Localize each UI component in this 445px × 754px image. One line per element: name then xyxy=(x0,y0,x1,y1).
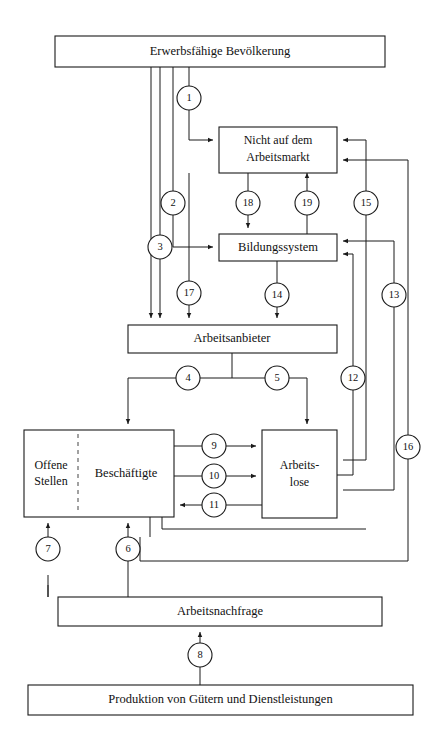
box-label-produktion: Produktion von Gütern und Dienstleistung… xyxy=(108,692,333,706)
flow-node-7[interactable]: 7 xyxy=(36,537,60,561)
flow-node-6[interactable]: 6 xyxy=(116,537,140,561)
box-label-offene-stellen-line1: Offene xyxy=(34,458,67,472)
flow-node-label-15: 15 xyxy=(361,197,372,208)
box-label-nicht-auf-dem-arbeitsmarkt-line1: Nicht auf dem xyxy=(244,133,313,147)
flow-node-label-10: 10 xyxy=(209,470,220,481)
connector-4 xyxy=(200,353,232,378)
connector-12b xyxy=(337,390,353,475)
box-label-arbeitslose-line2: lose xyxy=(290,475,309,489)
connector-13b xyxy=(343,307,394,490)
connector-12 xyxy=(343,254,353,366)
box-label-nicht-auf-dem-arbeitsmarkt-line2: Arbeitsmarkt xyxy=(246,150,310,164)
flow-node-17[interactable]: 17 xyxy=(177,281,201,305)
flow-node-label-11: 11 xyxy=(209,499,219,510)
flow-node-15[interactable]: 15 xyxy=(354,191,378,215)
flow-node-10[interactable]: 10 xyxy=(202,464,226,488)
flow-node-label-3: 3 xyxy=(157,241,162,252)
flow-node-label-17: 17 xyxy=(184,287,195,298)
box-bildungssystem[interactable]: Bildungssystem xyxy=(219,234,337,261)
connector-2b xyxy=(173,215,213,247)
flow-node-9[interactable]: 9 xyxy=(202,434,226,458)
flow-node-label-6: 6 xyxy=(125,543,130,554)
box-label-offene-stellen-line2: Stellen xyxy=(34,474,67,488)
flow-node-13[interactable]: 13 xyxy=(382,283,406,307)
flow-node-label-13: 13 xyxy=(389,289,400,300)
flow-node-5[interactable]: 5 xyxy=(265,366,289,390)
flow-node-label-18: 18 xyxy=(243,197,254,208)
flow-node-label-1: 1 xyxy=(186,92,191,103)
flow-diagram-svg: Erwerbsfähige Bevölkerung Nicht auf dem … xyxy=(0,0,445,754)
flow-node-label-4: 4 xyxy=(185,372,191,383)
flow-node-2[interactable]: 2 xyxy=(161,191,185,215)
connector-15 xyxy=(343,140,366,191)
flow-node-label-2: 2 xyxy=(170,197,175,208)
box-arbeitslose[interactable]: Arbeits- lose xyxy=(262,430,337,518)
box-label-arbeitsanbieter: Arbeitsanbieter xyxy=(193,331,271,345)
flow-node-3[interactable]: 3 xyxy=(148,235,172,259)
flow-node-label-16: 16 xyxy=(403,441,414,452)
box-arbeitsnachfrage[interactable]: Arbeitsnachfrage xyxy=(58,597,382,626)
flow-node-4[interactable]: 4 xyxy=(176,366,200,390)
connector-1b xyxy=(189,110,213,140)
box-nicht-auf-dem-arbeitsmarkt[interactable]: Nicht auf dem Arbeitsmarkt xyxy=(219,127,337,173)
box-label-bildungssystem: Bildungssystem xyxy=(238,240,318,254)
connector-15b xyxy=(343,215,366,460)
flow-node-14[interactable]: 14 xyxy=(265,283,289,307)
flow-node-16[interactable]: 16 xyxy=(396,435,420,459)
connector-15-stub xyxy=(162,517,366,529)
flow-node-label-8: 8 xyxy=(197,649,202,660)
flow-node-11[interactable]: 11 xyxy=(202,493,226,517)
box-label-arbeitslose-line1: Arbeits- xyxy=(280,458,319,472)
flow-node-label-7: 7 xyxy=(45,543,50,554)
flow-node-12[interactable]: 12 xyxy=(341,366,365,390)
flow-node-label-12: 12 xyxy=(348,372,359,383)
flow-node-label-9: 9 xyxy=(211,440,216,451)
flow-node-1[interactable]: 1 xyxy=(177,86,201,110)
connector-5b xyxy=(289,378,307,424)
connector-4b xyxy=(128,378,176,424)
box-label-beschaeftigte: Beschäftigte xyxy=(95,466,158,480)
flow-node-label-19: 19 xyxy=(302,197,313,208)
flow-node-8[interactable]: 8 xyxy=(188,643,212,667)
flow-node-18[interactable]: 18 xyxy=(236,191,260,215)
flow-node-label-14: 14 xyxy=(272,289,283,300)
flow-node-19[interactable]: 19 xyxy=(295,191,319,215)
flow-node-label-5: 5 xyxy=(274,372,279,383)
box-label-erwerbsfaehige-bevoelkerung: Erwerbsfähige Bevölkerung xyxy=(150,44,291,58)
box-produktion[interactable]: Produktion von Gütern und Dienstleistung… xyxy=(28,685,413,715)
box-arbeitsanbieter[interactable]: Arbeitsanbieter xyxy=(128,325,337,353)
box-erwerbsfaehige-bevoelkerung[interactable]: Erwerbsfähige Bevölkerung xyxy=(55,36,385,67)
box-label-arbeitsnachfrage: Arbeitsnachfrage xyxy=(177,604,264,618)
box-offene-stellen-beschaeftigte[interactable]: Offene Stellen Beschäftigte xyxy=(24,430,174,517)
connector-13 xyxy=(343,241,394,283)
flow-diagram-canvas: Erwerbsfähige Bevölkerung Nicht auf dem … xyxy=(0,0,445,754)
